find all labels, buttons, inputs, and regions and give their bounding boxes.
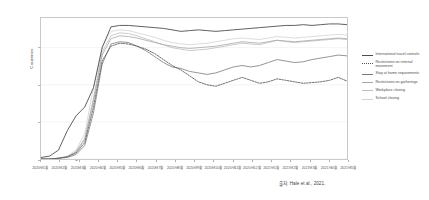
- legend-item[interactable]: Workplace closing: [362, 88, 428, 94]
- x-tick-mark: [59, 160, 60, 162]
- x-tick-mark: [348, 160, 349, 162]
- legend-swatch-icon: [362, 61, 373, 66]
- series-line: [41, 36, 347, 159]
- x-tick-mark: [194, 160, 195, 162]
- legend-swatch-icon: [362, 97, 373, 102]
- legend-item[interactable]: International travel controls: [362, 52, 428, 58]
- x-tick-mark: [233, 160, 234, 162]
- series-line: [41, 33, 347, 159]
- chart-legend: International travel controlsRestriction…: [362, 52, 428, 104]
- x-tick-label: 2021년3월: [302, 165, 318, 170]
- legend-label: Restrictions on gatherings: [376, 80, 418, 84]
- x-tick-label: 2020년1월: [32, 165, 48, 170]
- series-line: [41, 42, 347, 159]
- x-tick-mark: [310, 160, 311, 162]
- source-note: 출처: Hale et al., 2021.: [279, 180, 325, 186]
- series-line: [41, 30, 347, 159]
- x-tick-label: 2021년2월: [282, 165, 298, 170]
- x-tick-label: 2020년8월: [167, 165, 183, 170]
- x-tick-mark: [98, 160, 99, 162]
- chart-figure: Countries 050100150 2020년1월2020년2월2020년3…: [0, 0, 429, 200]
- y-axis-title: Countries: [29, 27, 34, 91]
- x-tick-label: 2020년9월: [186, 165, 202, 170]
- chart-canvas: [41, 18, 347, 159]
- x-tick-label: 2021년4월: [321, 165, 337, 170]
- x-tick-mark: [213, 160, 214, 162]
- series-lines: [41, 24, 347, 159]
- gridlines: [41, 48, 347, 159]
- legend-swatch-icon: [362, 53, 373, 58]
- x-tick-mark: [175, 160, 176, 162]
- legend-label: International travel controls: [376, 52, 420, 56]
- x-tick-label: 2020년2월: [51, 165, 67, 170]
- x-tick-mark: [117, 160, 118, 162]
- x-tick-mark: [271, 160, 272, 162]
- x-tick-mark: [156, 160, 157, 162]
- legend-swatch-icon: [362, 80, 373, 85]
- x-tick-mark: [40, 160, 41, 162]
- x-tick-mark: [136, 160, 137, 162]
- x-tick-mark: [329, 160, 330, 162]
- legend-item[interactable]: Restrictions on internal movement: [362, 60, 428, 69]
- legend-label: Restrictions on internal movement: [376, 60, 429, 69]
- x-tick-label: 2020년4월: [90, 165, 106, 170]
- legend-swatch-icon: [362, 88, 373, 93]
- legend-label: School closing: [376, 96, 399, 100]
- x-tick-label: 2020년12월: [243, 165, 261, 170]
- x-tick-label: 2020년11월: [224, 165, 241, 170]
- x-tick-label: 2020년3월: [71, 165, 87, 170]
- legend-item[interactable]: Stay at home requirements: [362, 71, 428, 77]
- x-tick-mark: [79, 160, 80, 162]
- plot-area: [40, 17, 348, 160]
- x-tick-label: 2021년5월: [340, 165, 356, 170]
- x-tick-label: 2021년1월: [263, 165, 279, 170]
- legend-label: Stay at home requirements: [376, 71, 420, 75]
- x-tick-label: 2020년10월: [204, 165, 222, 170]
- x-tick-label: 2020년5월: [109, 165, 125, 170]
- legend-item[interactable]: School closing: [362, 96, 428, 102]
- x-tick-label: 2020년7월: [148, 165, 164, 170]
- legend-swatch-icon: [362, 72, 373, 77]
- legend-label: Workplace closing: [376, 88, 405, 92]
- x-tick-label: 2020년6월: [128, 165, 144, 170]
- x-tick-mark: [290, 160, 291, 162]
- legend-item[interactable]: Restrictions on gatherings: [362, 80, 428, 86]
- series-line: [41, 43, 347, 159]
- x-tick-mark: [252, 160, 253, 162]
